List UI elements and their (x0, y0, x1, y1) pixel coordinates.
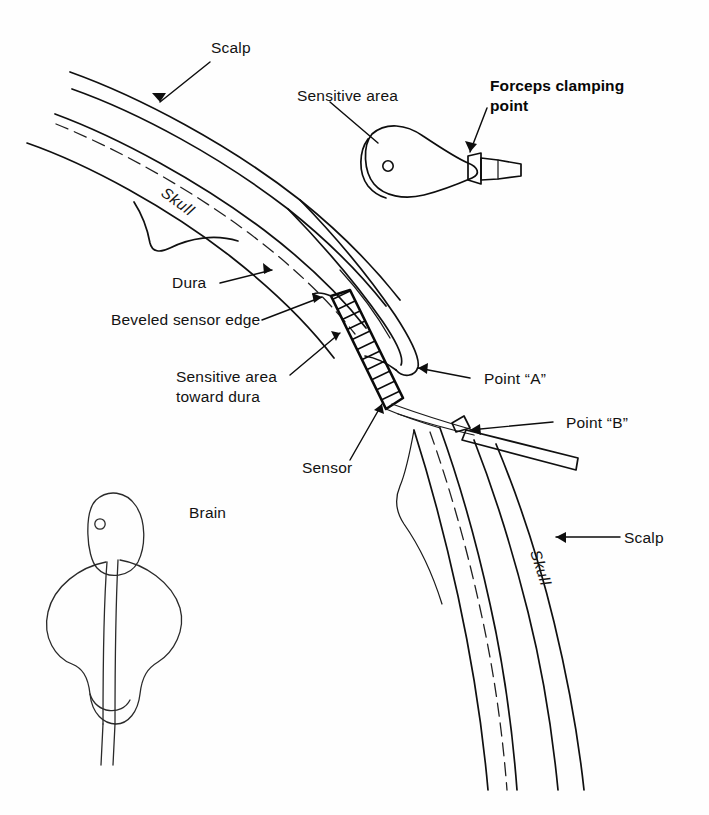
label-scalp-bottom: Scalp (624, 529, 664, 546)
skull-lower-right (397, 428, 517, 790)
sensor-cable-in-situ (392, 404, 578, 470)
sensor-port-circle (383, 161, 393, 171)
label-forceps-clamping-point-line2: point (490, 97, 528, 114)
label-sensor: Sensor (302, 459, 352, 476)
label-skull-top: Skull (158, 184, 198, 219)
label-forceps-clamping-point-line1: Forceps clamping (490, 77, 624, 94)
label-point-a: Point “A” (484, 370, 546, 387)
sensor-plan-view (47, 493, 182, 765)
label-sensitive-area-toward-dura-line1: Sensitive area (176, 368, 277, 385)
plan-sensor-port-circle (95, 519, 105, 529)
sensor-detail-view (361, 126, 521, 198)
label-scalp-top: Scalp (211, 39, 251, 56)
label-beveled-sensor-edge: Beveled sensor edge (111, 311, 260, 328)
sensor-placement-figure: Scalp Sensitive area Forceps clamping po… (0, 0, 709, 815)
label-brain: Brain (189, 504, 226, 521)
label-sensitive-area: Sensitive area (297, 87, 398, 104)
scalp-upper-left (70, 72, 400, 306)
label-skull-bottom: Skull (527, 548, 554, 588)
scalp-lower-right (474, 440, 584, 790)
diagram-page: Scalp Sensitive area Forceps clamping po… (0, 0, 709, 815)
label-dura: Dura (172, 274, 207, 291)
scalp-flap (288, 200, 418, 375)
label-point-b: Point “B” (566, 414, 628, 431)
label-sensitive-area-toward-dura-line2: toward dura (176, 388, 260, 405)
